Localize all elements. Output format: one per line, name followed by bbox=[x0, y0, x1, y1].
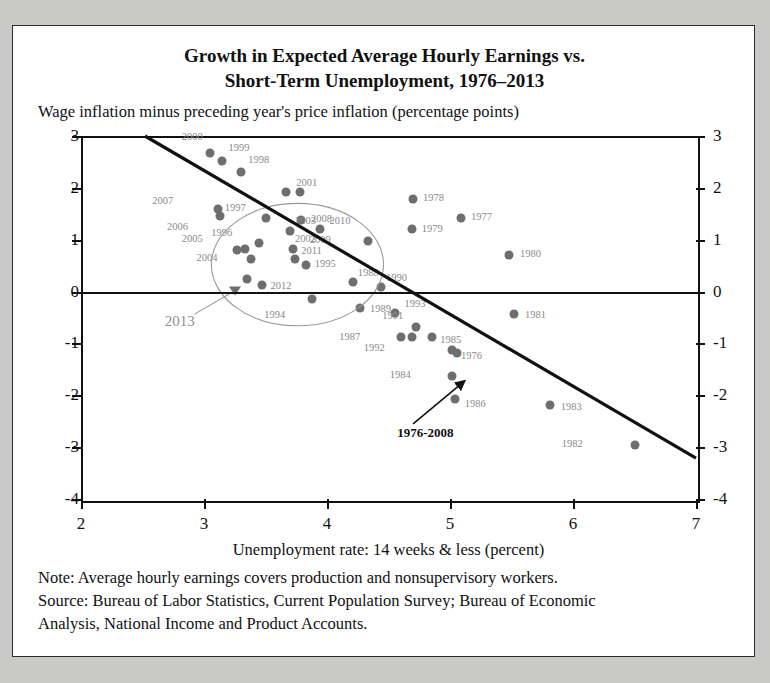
y-tick-label-left: 0 bbox=[71, 283, 80, 300]
y-tick-label-right: 0 bbox=[713, 283, 722, 300]
chart-overlay-shapes bbox=[81, 136, 696, 499]
y-tick-right bbox=[696, 136, 705, 138]
y-tick-label-left: 1 bbox=[71, 231, 80, 248]
x-tick bbox=[696, 499, 698, 509]
x-tick bbox=[450, 499, 452, 509]
chart-subtitle: Wage inflation minus preceding year's pr… bbox=[38, 102, 738, 122]
x-tick-label: 2 bbox=[77, 514, 86, 534]
x-tick-label: 7 bbox=[692, 514, 701, 534]
y-tick-right bbox=[696, 395, 705, 397]
chart-title-line-2: Short-Term Unemployment, 1976–2013 bbox=[13, 68, 756, 93]
y-tick-right bbox=[696, 343, 705, 345]
plot-area: 3210-1-2-3-4 3210-1-2-3-4 234567 2000199… bbox=[81, 136, 696, 499]
x-tick-label: 6 bbox=[569, 514, 578, 534]
y-tick-label-left: -4 bbox=[65, 490, 79, 507]
y-tick-label-right: -1 bbox=[713, 334, 727, 351]
leader-line-2013 bbox=[194, 292, 233, 315]
y-tick-right bbox=[696, 188, 705, 190]
highlight-ellipse-2002-2013 bbox=[211, 203, 383, 325]
y-tick-label-right: 1 bbox=[713, 231, 722, 248]
source-line-2: Analysis, National Income and Product Ac… bbox=[38, 612, 738, 635]
chart-title-line-1: Growth in Expected Average Hourly Earnin… bbox=[13, 43, 756, 68]
chart-title: Growth in Expected Average Hourly Earnin… bbox=[13, 43, 756, 93]
y-tick-right bbox=[696, 292, 705, 294]
x-tick-label: 4 bbox=[323, 514, 332, 534]
y-tick-label-left: 3 bbox=[71, 127, 80, 144]
y-tick-right bbox=[696, 447, 705, 449]
trend-line-1976-2008 bbox=[145, 136, 696, 458]
y-tick-label-right: 3 bbox=[713, 127, 722, 144]
source-line-1: Source: Bureau of Labor Statistics, Curr… bbox=[38, 589, 738, 612]
note-line: Note: Average hourly earnings covers pro… bbox=[38, 566, 738, 589]
y-tick-label-right: -4 bbox=[713, 490, 727, 507]
x-tick bbox=[327, 499, 329, 509]
zero-reference-line bbox=[81, 292, 696, 294]
chart-panel: Growth in Expected Average Hourly Earnin… bbox=[12, 25, 755, 657]
y-tick-label-right: 2 bbox=[713, 179, 722, 196]
x-tick bbox=[204, 499, 206, 509]
x-tick-label: 3 bbox=[200, 514, 209, 534]
y-tick-label-right: -2 bbox=[713, 386, 727, 403]
y-tick-label-left: 2 bbox=[71, 179, 80, 196]
x-tick bbox=[81, 499, 83, 509]
y-tick-label-left: -1 bbox=[65, 334, 79, 351]
y-tick-label-left: -3 bbox=[65, 438, 79, 455]
chart-notes: Note: Average hourly earnings covers pro… bbox=[38, 566, 738, 635]
x-tick bbox=[573, 499, 575, 509]
y-tick-right bbox=[696, 240, 705, 242]
x-tick-label: 5 bbox=[446, 514, 455, 534]
y-tick-label-left: -2 bbox=[65, 386, 79, 403]
x-axis-title: Unemployment rate: 14 weeks & less (perc… bbox=[81, 540, 696, 560]
y-tick-label-right: -3 bbox=[713, 438, 727, 455]
trend-annotation-arrow bbox=[413, 381, 465, 424]
